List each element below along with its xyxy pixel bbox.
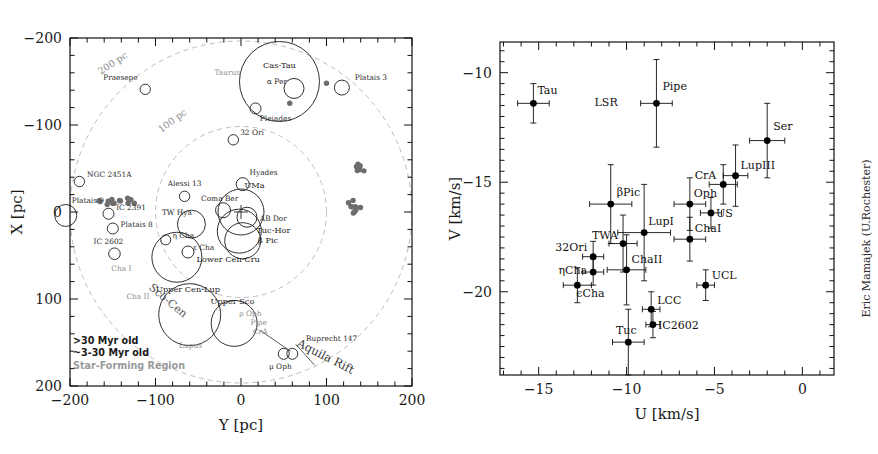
label-platais-8: Platais 8 (120, 220, 153, 229)
vlabel-ser: Ser (773, 120, 793, 133)
marker-pipe[interactable] (653, 100, 660, 107)
figure-credit: Eric Mamajek (U.Rochester) (860, 159, 873, 317)
distance-ring-labels: 200 pc100 pc (96, 49, 189, 134)
vlabel-ic2602: IC2602 (658, 319, 699, 332)
marker-oph[interactable] (686, 201, 693, 208)
vlabel-cra: CrA (695, 169, 718, 182)
xtick-label-1: −100 (136, 392, 174, 408)
marker-tau[interactable] (530, 100, 537, 107)
vlabel-pipe: Pipe (662, 80, 686, 93)
xtick-label-4: 200 (399, 392, 426, 408)
figure-container: 200 pc100 pcSco-CenAquila RiftPraesepeTa… (0, 0, 878, 454)
assoc-circle-pleiades[interactable] (250, 103, 261, 114)
sfr-dot-taurus (125, 196, 130, 201)
right-plot-svg: TauLSRPipeSerLupIIICrAOphUSβPicLupITWACh… (440, 0, 878, 454)
marker-bpic[interactable] (607, 201, 614, 208)
right-tick-labels: −15−10−50−10−15−20 (462, 65, 806, 397)
panel-right-uv-velocity: TauLSRPipeSerLupIIICrAOphUSβPicLupITWACh… (440, 0, 878, 454)
assoc-circle-praesepe[interactable] (140, 84, 150, 94)
marker-tuc[interactable] (625, 339, 632, 346)
sfr-dot-pipe (358, 205, 363, 210)
label-pipe: Pipe (250, 318, 266, 327)
marker-chaii[interactable] (623, 266, 630, 273)
vlabel-32ori: 32Ori (555, 241, 587, 254)
label-alpha-per: α Per (267, 77, 287, 86)
marker-ser[interactable] (764, 137, 771, 144)
assoc-circle-ruprecht-147[interactable] (287, 348, 298, 359)
xtick-label-0: −200 (51, 392, 89, 408)
assoc-circle-tuc-hor[interactable] (217, 209, 261, 253)
label-cra: CrA (253, 327, 268, 336)
vlabel-chaii: ChaII (632, 253, 663, 266)
assoc-circle-alessi-13[interactable] (179, 191, 189, 201)
assoc-circle-ngc-2451a[interactable] (74, 176, 84, 186)
vlabel-oph: Oph (694, 187, 717, 200)
label-hyades: Hyades (250, 168, 278, 177)
velocity-labels: TauLSRPipeSerLupIIICrAOphUSβPicLupITWACh… (537, 80, 793, 337)
assoc-circle-eta-cha[interactable] (161, 235, 171, 245)
left-plot-legend: >30 Myr old~3-30 Myr oldStar-Forming Reg… (73, 335, 185, 371)
marker-chai[interactable] (686, 236, 693, 243)
label-ab-dor: AB Dor (259, 214, 287, 223)
sfr-dot-cha-i (287, 101, 292, 106)
rytick-label-1: −15 (462, 174, 492, 190)
label-cha-ii: Cha II (126, 292, 149, 301)
vlabel-ucl: UCL (712, 269, 738, 282)
panel-left-xy-map: 200 pc100 pcSco-CenAquila RiftPraesepeTa… (0, 0, 440, 454)
label-ic-2602: IC 2602 (94, 237, 124, 246)
label-lupus: Lupus (179, 341, 202, 350)
label-praesepe: Praesepe (103, 73, 138, 82)
marker-32ori[interactable] (590, 253, 597, 260)
vlabel-lcc: LCC (657, 294, 681, 307)
assoc-circle-platais-3[interactable] (334, 80, 349, 95)
label-tw-hya: TW Hya (162, 208, 192, 217)
marker-us[interactable] (708, 209, 715, 216)
rxtick-label-2: −5 (704, 381, 725, 397)
label-taurus: Taurus (215, 68, 241, 77)
label-coma-ber: Coma Ber (201, 194, 239, 203)
marker-lupi[interactable] (641, 229, 648, 236)
assoc-circle-ic-2602[interactable] (109, 248, 121, 260)
marker-ucl[interactable] (702, 282, 709, 289)
vlabel-chai: ChaI (695, 222, 721, 235)
marker-twa[interactable] (620, 240, 627, 247)
xtick-label-2: 0 (237, 392, 246, 408)
sfr-dot-pipe (352, 209, 357, 214)
marker-ic2602[interactable] (650, 321, 657, 328)
legend-item-1: ~3-30 Myr old (73, 347, 149, 358)
vlabel-twa: TWA (592, 229, 619, 242)
label-upper-cen-lup: Upper Cen-Lup (156, 284, 220, 294)
sfr-dot-lupus (355, 168, 360, 173)
ytick-label-4: 200 (35, 378, 62, 394)
ring-label-100-pc: 100 pc (156, 106, 189, 134)
label-ic-2391: IC 2391 (116, 203, 146, 212)
ytick-label-0: −200 (24, 30, 62, 46)
assoc-circle-ic-2391[interactable] (103, 208, 114, 219)
marker-cra[interactable] (720, 181, 727, 188)
legend-item-0: >30 Myr old (73, 335, 138, 346)
label-32-ori: 32 Ori (240, 128, 264, 137)
ytick-label-1: −100 (24, 117, 62, 133)
label-ruprecht-147: Ruprecht 147 (306, 334, 358, 343)
label-ngc-2451a: NGC 2451A (87, 170, 132, 179)
left-plot-svg: 200 pc100 pcSco-CenAquila RiftPraesepeTa… (0, 0, 440, 454)
marker-lcc[interactable] (648, 306, 655, 313)
vlabel-echa: ϵCha (576, 287, 605, 300)
label-alessi-13: Alessi 13 (167, 179, 202, 188)
label-mu-oph: μ Oph (269, 362, 292, 371)
label-pleiades: Pleiades (260, 114, 292, 123)
sfr-dot-cha-ii (324, 81, 329, 86)
assoc-circle-alpha-per[interactable] (284, 78, 304, 98)
assoc-circle-platais-8[interactable] (107, 223, 118, 234)
sfr-dot-lupus (361, 168, 366, 173)
vlabel-tuc: Tuc (616, 324, 637, 337)
marker-etacha[interactable] (590, 269, 597, 276)
label-eta-cha: η Cha (173, 231, 195, 240)
label-platais-9: Platais 9 (72, 196, 105, 205)
association-labels: PraesepeTaurusCas-Tauα PerPlatais 3Pleia… (72, 60, 388, 370)
assoc-circle-mu-oph[interactable] (278, 348, 289, 359)
label-beta-pic: β Pic (258, 235, 278, 245)
marker-lupiii[interactable] (732, 172, 739, 179)
assoc-circle-32-ori[interactable] (228, 135, 238, 145)
vlabel-tau: Tau (537, 84, 557, 97)
